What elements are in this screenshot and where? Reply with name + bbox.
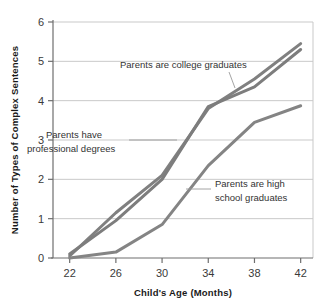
line-chart: 6 5 4 3 2 1 0 22 26 30 34 38 42 Child's …	[0, 0, 327, 306]
annotation-college-line-1: Parents are college graduates	[120, 59, 247, 70]
y-tick-label-4: 4	[38, 95, 44, 107]
y-tick-label-0: 0	[38, 252, 44, 264]
annotation-highschool-line-2: school graduates	[215, 192, 288, 203]
chart-figure: 6 5 4 3 2 1 0 22 26 30 34 38 42 Child's …	[0, 0, 327, 306]
x-axis-title: Child's Age (Months)	[134, 287, 232, 298]
annotation-professional-line-2: professional degrees	[27, 143, 115, 154]
y-axis-title: Number of Types of Complex Sentences	[9, 46, 20, 234]
x-tick-label-26: 26	[110, 267, 122, 279]
y-tick-label-2: 2	[38, 173, 44, 185]
annotation-professional-line-1: Parents have	[46, 129, 102, 140]
y-tick-label-5: 5	[38, 55, 44, 67]
x-tick-label-38: 38	[248, 267, 260, 279]
x-tick-label-42: 42	[295, 267, 307, 279]
x-tick-label-34: 34	[202, 267, 214, 279]
annotation-highschool-line-1: Parents are high	[215, 178, 285, 189]
annotation-college-graduates: Parents are college graduates	[120, 59, 247, 70]
x-tick-label-30: 30	[156, 267, 168, 279]
y-tick-label-6: 6	[38, 16, 44, 28]
x-tick-label-22: 22	[64, 267, 76, 279]
y-tick-label-1: 1	[38, 213, 44, 225]
